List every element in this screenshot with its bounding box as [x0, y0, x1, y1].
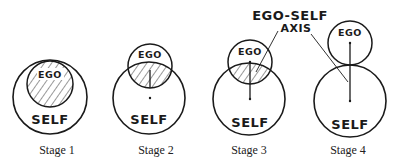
ego-label: EGO: [338, 27, 362, 38]
self-center-dot: [349, 100, 351, 102]
ego-self-diagram: EGO SELF Stage 1 EGO SELF Stage 2 EGO SE…: [0, 0, 402, 167]
stage-label: Stage 2: [138, 143, 174, 157]
stage-2: EGO SELF Stage 2: [113, 44, 185, 157]
self-center-dot: [249, 98, 251, 100]
annotation-subtitle: AXIS: [280, 22, 311, 35]
stage-1: EGO SELF Stage 1: [13, 60, 87, 157]
stage-4: EGO SELF Stage 4: [314, 21, 386, 157]
ego-center-dot: [349, 42, 351, 44]
ego-label: EGO: [38, 69, 62, 80]
self-center-dot: [149, 97, 151, 99]
stage-label: Stage 3: [231, 143, 267, 157]
self-label: SELF: [31, 112, 68, 127]
stage-label: Stage 1: [39, 143, 75, 157]
self-label: SELF: [130, 112, 167, 127]
annotation-title: EGO-SELF: [252, 8, 328, 23]
leader-line-stage-4: [311, 34, 348, 82]
self-label: SELF: [231, 115, 268, 130]
ego-center-dot: [249, 61, 251, 63]
ego-label: EGO: [238, 46, 262, 57]
ego-label: EGO: [138, 49, 162, 60]
self-label: SELF: [331, 117, 368, 132]
stage-3: EGO SELF Stage 3: [213, 40, 285, 157]
stage-label: Stage 4: [330, 143, 366, 157]
